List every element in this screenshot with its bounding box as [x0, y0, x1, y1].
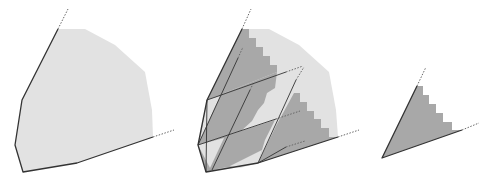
dark-region [382, 86, 462, 158]
dotted-ray [242, 9, 251, 29]
diagram-canvas [0, 0, 495, 182]
dotted-ray [153, 130, 174, 137]
dotted-ray [462, 123, 479, 130]
dotted-ray [338, 130, 359, 137]
dotted-ray [58, 9, 68, 29]
staircase-cone-panel [382, 67, 479, 158]
convex-region-panel [15, 9, 174, 172]
light-region [15, 29, 153, 172]
dotted-ray [417, 67, 426, 86]
decomposed-region-panel [198, 9, 359, 172]
